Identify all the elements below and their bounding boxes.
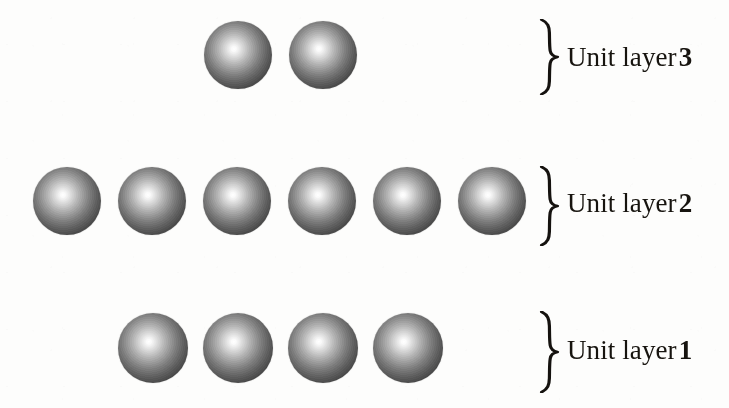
sphere-layer-diagram: Unit layer3Unit layer2Unit layer1 (0, 0, 729, 408)
curly-brace-icon (538, 166, 562, 246)
layer-label-3: Unit layer3 (567, 42, 692, 73)
curly-brace-icon (538, 311, 562, 393)
sphere (288, 313, 358, 383)
sphere (373, 313, 443, 383)
sphere (118, 313, 188, 383)
layer-label-text: Unit layer (567, 335, 677, 365)
layer-label-2: Unit layer2 (567, 188, 692, 219)
layer-label-number: 2 (677, 188, 693, 218)
sphere (118, 167, 186, 235)
sphere (203, 313, 273, 383)
sphere (288, 167, 356, 235)
curly-brace-icon (538, 19, 562, 95)
sphere (373, 167, 441, 235)
sphere (204, 21, 272, 89)
layer-label-text: Unit layer (567, 42, 677, 72)
layer-label-number: 1 (677, 335, 693, 365)
sphere (289, 21, 357, 89)
sphere (203, 167, 271, 235)
layer-label-text: Unit layer (567, 188, 677, 218)
layer-label-1: Unit layer1 (567, 335, 692, 366)
layer-label-number: 3 (677, 42, 693, 72)
sphere (458, 167, 526, 235)
sphere (33, 167, 101, 235)
